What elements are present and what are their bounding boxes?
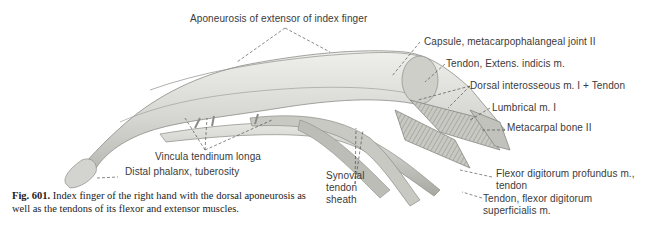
figure-caption: Fig. 601. Index finger of the right hand…: [12, 189, 312, 215]
label-lumbrical: Lumbrical m. I: [492, 102, 556, 114]
label-tendon-extensor-indicis: Tendon, Extens. indicis m.: [446, 58, 565, 70]
label-synovial-sheath-line2: tendon: [326, 182, 357, 194]
label-capsule-mcp-joint: Capsule, metacarpophalangeal joint II: [424, 36, 596, 48]
label-aponeurosis: Aponeurosis of extensor of index finger: [190, 13, 367, 25]
fingertip: [65, 159, 96, 188]
label-synovial-sheath-line1: Synovial: [326, 170, 365, 182]
label-vincula-tendinum: Vincula tendinum longa: [155, 151, 261, 163]
label-synovial-sheath-line3: sheath: [326, 194, 357, 206]
label-fdp-line2: tendon: [496, 180, 527, 192]
anatomy-figure: Aponeurosis of extensor of index finger …: [0, 0, 655, 227]
caption-line1: Index finger of the right hand with the …: [53, 190, 295, 201]
label-fdp-line1: Flexor digitorum profundus m.,: [496, 168, 635, 180]
label-distal-phalanx: Distal phalanx, tuberosity: [125, 166, 239, 178]
figure-number: Fig. 601.: [12, 190, 50, 201]
label-fds-line1: Tendon, flexor digitorum: [483, 193, 592, 205]
label-fds-line2: superficialis m.: [483, 205, 551, 217]
label-dorsal-interosseous: Dorsal interosseous m. I + Tendon: [470, 80, 625, 92]
label-metacarpal-bone: Metacarpal bone II: [507, 122, 592, 134]
